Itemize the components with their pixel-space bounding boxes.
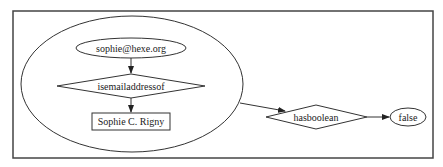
edge-cluster-to-hasboolean bbox=[240, 103, 285, 111]
node-hasboolean-label: hasboolean bbox=[294, 112, 339, 123]
node-person[interactable]: Sophie C. Rigny bbox=[92, 113, 170, 130]
node-false[interactable]: false bbox=[390, 108, 426, 126]
node-email[interactable]: sophie@hexe.org bbox=[76, 38, 186, 58]
diagram-canvas: sophie@hexe.org isemailaddressof Sophie … bbox=[0, 0, 443, 167]
node-false-label: false bbox=[399, 112, 418, 123]
node-person-label: Sophie C. Rigny bbox=[98, 116, 164, 127]
node-isemailaddressof-label: isemailaddressof bbox=[97, 81, 165, 92]
node-isemailaddressof[interactable]: isemailaddressof bbox=[57, 74, 205, 98]
node-email-label: sophie@hexe.org bbox=[96, 43, 166, 54]
node-hasboolean[interactable]: hasboolean bbox=[266, 105, 367, 129]
